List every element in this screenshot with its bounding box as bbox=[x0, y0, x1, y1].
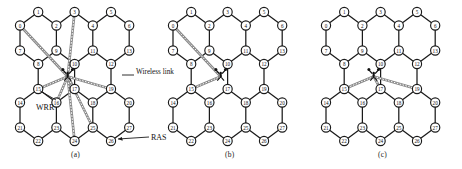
node-18[interactable]: 18 bbox=[241, 98, 250, 107]
node-19[interactable]: 19 bbox=[259, 84, 268, 93]
node-2[interactable]: 2 bbox=[52, 21, 61, 30]
ras-label: RAS bbox=[151, 133, 167, 142]
node-26[interactable]: 26 bbox=[259, 136, 268, 145]
node-9[interactable]: 9 bbox=[205, 46, 214, 55]
node-15[interactable]: 15 bbox=[187, 84, 196, 93]
node-3[interactable]: 3 bbox=[223, 7, 232, 16]
node-4[interactable]: 4 bbox=[241, 21, 250, 30]
node-17[interactable]: 17 bbox=[223, 84, 232, 93]
node-label: 26 bbox=[108, 138, 114, 144]
wireless-links bbox=[173, 26, 221, 90]
node-10[interactable]: 10 bbox=[70, 59, 79, 68]
node-1[interactable]: 1 bbox=[340, 7, 349, 16]
node-label: 20 bbox=[280, 100, 286, 106]
node-23[interactable]: 23 bbox=[205, 123, 214, 132]
node-12[interactable]: 12 bbox=[259, 59, 268, 68]
node-label: 9 bbox=[361, 48, 364, 54]
node-22[interactable]: 22 bbox=[187, 136, 196, 145]
node-17[interactable]: 17 bbox=[70, 84, 79, 93]
node-12[interactable]: 12 bbox=[412, 59, 421, 68]
node-27[interactable]: 27 bbox=[278, 123, 287, 132]
ras-leader bbox=[118, 137, 149, 139]
node-label: 4 bbox=[245, 23, 248, 29]
node-27[interactable]: 27 bbox=[125, 123, 134, 132]
node-11[interactable]: 11 bbox=[394, 46, 403, 55]
node-27[interactable]: 27 bbox=[431, 123, 440, 132]
node-9[interactable]: 9 bbox=[358, 46, 367, 55]
node-8[interactable]: 8 bbox=[340, 59, 349, 68]
node-1[interactable]: 1 bbox=[34, 7, 43, 16]
node-14[interactable]: 14 bbox=[168, 98, 177, 107]
node-label: 6 bbox=[281, 23, 284, 29]
node-label: 15 bbox=[342, 86, 348, 92]
node-18[interactable]: 18 bbox=[394, 98, 403, 107]
node-21[interactable]: 21 bbox=[168, 123, 177, 132]
node-24[interactable]: 24 bbox=[70, 136, 79, 145]
node-10[interactable]: 10 bbox=[376, 59, 385, 68]
node-label: 4 bbox=[92, 23, 95, 29]
node-22[interactable]: 22 bbox=[34, 136, 43, 145]
node-8[interactable]: 8 bbox=[34, 59, 43, 68]
node-23[interactable]: 23 bbox=[52, 123, 61, 132]
node-label: 3 bbox=[73, 9, 76, 15]
node-20[interactable]: 20 bbox=[431, 98, 440, 107]
node-6[interactable]: 6 bbox=[278, 21, 287, 30]
node-13[interactable]: 13 bbox=[125, 46, 134, 55]
node-20[interactable]: 20 bbox=[125, 98, 134, 107]
node-22[interactable]: 22 bbox=[340, 136, 349, 145]
node-5[interactable]: 5 bbox=[106, 7, 115, 16]
node-5[interactable]: 5 bbox=[412, 7, 421, 16]
node-19[interactable]: 19 bbox=[412, 84, 421, 93]
node-5[interactable]: 5 bbox=[259, 7, 268, 16]
node-7[interactable]: 7 bbox=[321, 46, 330, 55]
node-2[interactable]: 2 bbox=[358, 21, 367, 30]
node-label: 21 bbox=[170, 125, 176, 131]
node-3[interactable]: 3 bbox=[376, 7, 385, 16]
node-21[interactable]: 21 bbox=[15, 123, 24, 132]
node-20[interactable]: 20 bbox=[278, 98, 287, 107]
node-10[interactable]: 10 bbox=[223, 59, 232, 68]
node-8[interactable]: 8 bbox=[187, 59, 196, 68]
node-24[interactable]: 24 bbox=[376, 136, 385, 145]
node-0[interactable]: 0 bbox=[321, 21, 330, 30]
node-15[interactable]: 15 bbox=[340, 84, 349, 93]
node-4[interactable]: 4 bbox=[394, 21, 403, 30]
node-label: 4 bbox=[398, 23, 401, 29]
node-25[interactable]: 25 bbox=[241, 123, 250, 132]
node-2[interactable]: 2 bbox=[205, 21, 214, 30]
node-3[interactable]: 3 bbox=[70, 7, 79, 16]
node-12[interactable]: 12 bbox=[106, 59, 115, 68]
node-21[interactable]: 21 bbox=[321, 123, 330, 132]
node-25[interactable]: 25 bbox=[88, 123, 97, 132]
node-0[interactable]: 0 bbox=[168, 21, 177, 30]
node-16[interactable]: 16 bbox=[358, 98, 367, 107]
node-13[interactable]: 13 bbox=[278, 46, 287, 55]
node-23[interactable]: 23 bbox=[358, 123, 367, 132]
node-16[interactable]: 16 bbox=[205, 98, 214, 107]
node-4[interactable]: 4 bbox=[88, 21, 97, 30]
node-9[interactable]: 9 bbox=[52, 46, 61, 55]
node-26[interactable]: 26 bbox=[412, 136, 421, 145]
node-19[interactable]: 19 bbox=[106, 84, 115, 93]
node-13[interactable]: 13 bbox=[431, 46, 440, 55]
node-25[interactable]: 25 bbox=[394, 123, 403, 132]
node-18[interactable]: 18 bbox=[88, 98, 97, 107]
node-label: 1 bbox=[343, 9, 346, 15]
node-0[interactable]: 0 bbox=[15, 21, 24, 30]
node-7[interactable]: 7 bbox=[168, 46, 177, 55]
node-26[interactable]: 26 bbox=[106, 136, 115, 145]
node-label: 21 bbox=[17, 125, 23, 131]
node-7[interactable]: 7 bbox=[15, 46, 24, 55]
node-15[interactable]: 15 bbox=[34, 84, 43, 93]
node-11[interactable]: 11 bbox=[241, 46, 250, 55]
node-14[interactable]: 14 bbox=[321, 98, 330, 107]
node-24[interactable]: 24 bbox=[223, 136, 232, 145]
node-1[interactable]: 1 bbox=[187, 7, 196, 16]
node-label: 10 bbox=[72, 61, 78, 67]
node-6[interactable]: 6 bbox=[125, 21, 134, 30]
node-17[interactable]: 17 bbox=[376, 84, 385, 93]
node-14[interactable]: 14 bbox=[15, 98, 24, 107]
node-6[interactable]: 6 bbox=[431, 21, 440, 30]
node-11[interactable]: 11 bbox=[88, 46, 97, 55]
node-label: 25 bbox=[396, 125, 402, 131]
